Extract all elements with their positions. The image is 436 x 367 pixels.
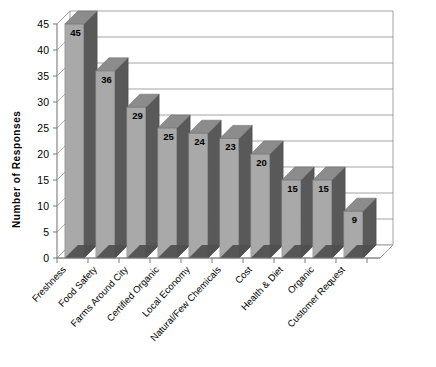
bar-front-face: [251, 154, 270, 258]
bar-side-face: [301, 167, 314, 258]
bar-side-face: [332, 167, 345, 258]
bar-value-label: 15: [287, 183, 298, 194]
bar: [282, 167, 314, 258]
bar-side-face: [177, 115, 190, 258]
y-axis-title-text: Number of Responses: [11, 110, 22, 228]
bar-value-label: 25: [163, 131, 174, 142]
bar-side-face: [115, 58, 128, 258]
bar-value-label: 29: [132, 110, 143, 121]
chart-canvas: 051015202530354045 FreshnessFood SafetyF…: [0, 0, 436, 367]
bar-value-label: 9: [352, 214, 357, 225]
y-tick-label: 25: [37, 122, 49, 134]
y-tick-label: 15: [37, 174, 49, 186]
bar-front-face: [65, 24, 84, 258]
bar-side-face: [208, 120, 221, 258]
bar: [344, 198, 376, 258]
bar-front-face: [158, 128, 177, 258]
y-tick-label: 20: [37, 148, 49, 160]
bar-side-face: [146, 94, 159, 258]
bar-value-label: 15: [318, 183, 329, 194]
bar-front-face: [127, 107, 146, 258]
bar-value-label: 23: [225, 141, 236, 152]
bar-front-face: [96, 71, 115, 258]
bar-side-face: [270, 141, 283, 258]
y-tick-label: 35: [37, 70, 49, 82]
bar-value-label: 36: [101, 74, 112, 85]
y-tick-label: 5: [43, 226, 49, 238]
bar-value-label: 24: [194, 136, 205, 147]
y-tick-label: 0: [43, 252, 49, 264]
y-tick-label: 40: [37, 44, 49, 56]
bar-value-label: 20: [256, 157, 267, 168]
y-axis-title: Number of Responses: [11, 110, 22, 228]
bar-front-face: [220, 138, 239, 258]
bar-chart: 051015202530354045 FreshnessFood SafetyF…: [0, 0, 436, 367]
bar: [313, 167, 345, 258]
y-tick-label: 45: [37, 18, 49, 30]
bar-value-label: 45: [70, 27, 81, 38]
bar-side-face: [239, 125, 252, 258]
y-tick-label: 10: [37, 200, 49, 212]
y-tick-label: 30: [37, 96, 49, 108]
bar: [65, 11, 97, 258]
bar-side-face: [84, 11, 97, 258]
bar-front-face: [189, 133, 208, 258]
bar: [96, 58, 128, 258]
